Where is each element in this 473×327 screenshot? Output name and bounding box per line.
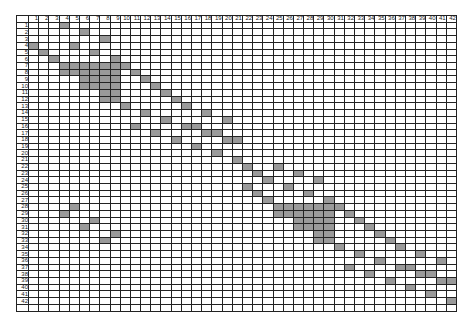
empty-cell <box>405 298 415 305</box>
empty-cell <box>90 163 100 170</box>
empty-cell <box>304 177 314 184</box>
shaded-cell <box>141 76 151 83</box>
empty-cell <box>151 170 161 177</box>
empty-cell <box>314 116 324 123</box>
empty-cell <box>79 36 89 43</box>
empty-cell <box>273 251 283 258</box>
row-header: 26 <box>17 190 29 197</box>
empty-cell <box>232 244 242 251</box>
empty-cell <box>385 63 395 70</box>
row-header: 4 <box>17 42 29 49</box>
shaded-cell <box>365 271 375 278</box>
empty-cell <box>416 56 426 63</box>
matrix-body: 1234567891011121314151617181920212223242… <box>17 22 457 311</box>
empty-cell <box>69 278 79 285</box>
empty-cell <box>385 96 395 103</box>
empty-cell <box>355 163 365 170</box>
empty-cell <box>405 29 415 36</box>
empty-cell <box>39 257 49 264</box>
empty-cell <box>232 197 242 204</box>
empty-cell <box>426 231 436 238</box>
empty-cell <box>324 63 334 70</box>
empty-cell <box>232 291 242 298</box>
empty-cell <box>273 224 283 231</box>
matrix-row: 33 <box>17 237 457 244</box>
column-header: 21 <box>232 16 242 23</box>
empty-cell <box>39 130 49 137</box>
empty-cell <box>293 143 303 150</box>
empty-cell <box>405 36 415 43</box>
row-header: 7 <box>17 63 29 70</box>
empty-cell <box>212 76 222 83</box>
empty-cell <box>90 96 100 103</box>
empty-cell <box>334 69 344 76</box>
empty-cell <box>334 251 344 258</box>
empty-cell <box>232 63 242 70</box>
empty-cell <box>416 183 426 190</box>
empty-cell <box>90 231 100 238</box>
empty-cell <box>59 257 69 264</box>
empty-cell <box>405 217 415 224</box>
empty-cell <box>334 183 344 190</box>
empty-cell <box>304 42 314 49</box>
column-header: 26 <box>283 16 293 23</box>
empty-cell <box>355 83 365 90</box>
empty-cell <box>426 237 436 244</box>
empty-cell <box>416 224 426 231</box>
empty-cell <box>426 56 436 63</box>
empty-cell <box>49 190 59 197</box>
empty-cell <box>161 96 171 103</box>
empty-cell <box>385 116 395 123</box>
empty-cell <box>263 63 273 70</box>
shaded-cell <box>314 231 324 238</box>
empty-cell <box>446 89 456 96</box>
empty-cell <box>49 116 59 123</box>
matrix-row: 26 <box>17 190 457 197</box>
empty-cell <box>39 224 49 231</box>
empty-cell <box>242 123 252 130</box>
empty-cell <box>151 49 161 56</box>
empty-cell <box>29 204 39 211</box>
empty-cell <box>39 63 49 70</box>
empty-cell <box>69 177 79 184</box>
empty-cell <box>130 298 140 305</box>
empty-cell <box>263 29 273 36</box>
matrix-row: 5 <box>17 49 457 56</box>
empty-cell <box>334 103 344 110</box>
empty-cell <box>273 231 283 238</box>
shaded-cell <box>293 204 303 211</box>
empty-cell <box>395 284 405 291</box>
empty-cell <box>59 298 69 305</box>
empty-cell <box>212 123 222 130</box>
empty-cell <box>344 22 354 29</box>
empty-cell <box>90 22 100 29</box>
empty-cell <box>293 69 303 76</box>
row-header: 12 <box>17 96 29 103</box>
empty-cell <box>436 76 446 83</box>
empty-cell <box>253 177 263 184</box>
shaded-cell <box>344 210 354 217</box>
empty-cell <box>426 76 436 83</box>
empty-cell <box>283 49 293 56</box>
empty-cell <box>416 278 426 285</box>
empty-cell <box>69 103 79 110</box>
empty-cell <box>365 157 375 164</box>
column-header: 38 <box>405 16 415 23</box>
empty-cell <box>263 157 273 164</box>
empty-cell <box>130 170 140 177</box>
empty-cell <box>324 83 334 90</box>
empty-cell <box>39 29 49 36</box>
empty-cell <box>49 123 59 130</box>
empty-cell <box>161 244 171 251</box>
column-header: 13 <box>151 16 161 23</box>
empty-cell <box>79 251 89 258</box>
row-header: 20 <box>17 150 29 157</box>
empty-cell <box>344 96 354 103</box>
empty-cell <box>161 56 171 63</box>
empty-cell <box>436 36 446 43</box>
column-header: 20 <box>222 16 232 23</box>
empty-cell <box>436 210 446 217</box>
empty-cell <box>120 177 130 184</box>
shaded-cell <box>100 89 110 96</box>
shaded-cell <box>59 210 69 217</box>
